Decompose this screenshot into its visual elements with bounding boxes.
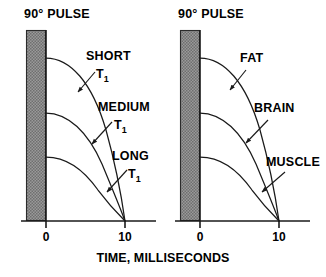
- x-tick-label-0-right: 0: [197, 230, 204, 244]
- mri-t1-decay-figure: 90° PULSE 0 10 SHORT T1 MEDIUM T1 LONG: [0, 0, 326, 277]
- label-muscle: MUSCLE: [266, 155, 320, 169]
- label-long-t1: LONG: [112, 149, 149, 163]
- panel-left-header: 90° PULSE: [24, 7, 90, 21]
- x-tick-label-10-right: 10: [272, 230, 286, 244]
- label-brain: BRAIN: [254, 101, 295, 115]
- x-tick-label-0-left: 0: [43, 230, 50, 244]
- x-axis-caption: TIME, MILLISECONDS: [96, 251, 229, 265]
- figure-root: 90° PULSE 0 10 SHORT T1 MEDIUM T1 LONG: [0, 0, 326, 277]
- pulse-bar-right: [181, 31, 200, 221]
- label-fat: FAT: [240, 51, 263, 65]
- label-medium-t1: MEDIUM: [98, 100, 150, 114]
- panel-right-header: 90° PULSE: [178, 7, 244, 21]
- x-tick-label-10-left: 10: [118, 230, 132, 244]
- label-short-t1: SHORT: [86, 49, 131, 63]
- pulse-bar-left: [27, 31, 46, 221]
